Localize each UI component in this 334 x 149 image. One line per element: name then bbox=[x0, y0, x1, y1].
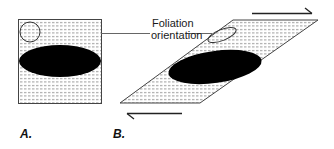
panel-a bbox=[19, 20, 102, 104]
panel-b bbox=[120, 20, 318, 103]
shear-arrow-bottom bbox=[127, 114, 182, 120]
panel-b-label: B. bbox=[113, 127, 125, 141]
dark-ellipse bbox=[19, 45, 101, 77]
annotation-line1: Foliation bbox=[152, 17, 194, 29]
annotation-line2: orientation bbox=[151, 29, 202, 41]
foliation-shear-diagram: Foliation orientation A. B. bbox=[0, 0, 334, 149]
shear-arrow-top bbox=[252, 8, 312, 14]
panel-a-label: A. bbox=[19, 127, 32, 141]
